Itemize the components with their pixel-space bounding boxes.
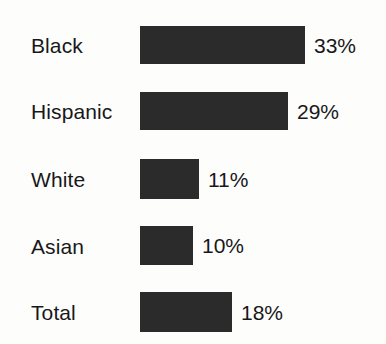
bar-track: 18% xyxy=(140,292,283,332)
category-label: Black xyxy=(31,35,83,56)
bar-value-label: 11% xyxy=(208,169,248,190)
bar-track: 29% xyxy=(140,92,339,130)
bar-value-label: 29% xyxy=(297,101,339,122)
chart-row: Asian 10% xyxy=(0,226,386,265)
category-label: White xyxy=(31,169,85,190)
bar-value-label: 10% xyxy=(202,235,244,256)
chart-row: Black 33% xyxy=(0,26,386,64)
bar-track: 10% xyxy=(140,226,244,265)
bar xyxy=(140,226,193,265)
bar xyxy=(140,292,232,332)
bar-track: 11% xyxy=(140,159,248,199)
bar-value-label: 33% xyxy=(314,35,356,56)
bar xyxy=(140,159,199,199)
category-label: Total xyxy=(31,302,76,323)
chart-row: White 11% xyxy=(0,159,386,199)
chart-row: Total 18% xyxy=(0,292,386,332)
bar xyxy=(140,92,288,130)
bar xyxy=(140,26,305,64)
bar-value-label: 18% xyxy=(241,302,283,323)
bar-chart: Black 33% Hispanic 29% White 11% Asian 1… xyxy=(0,0,386,344)
chart-row: Hispanic 29% xyxy=(0,92,386,130)
bar-track: 33% xyxy=(140,26,356,64)
category-label: Asian xyxy=(31,236,84,257)
category-label: Hispanic xyxy=(31,101,112,122)
